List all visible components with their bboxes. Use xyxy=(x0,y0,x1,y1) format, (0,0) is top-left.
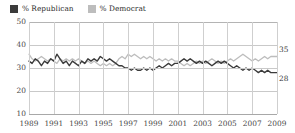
gridline-x-2009 xyxy=(277,22,278,114)
x-tick-label-2001: 2001 xyxy=(168,119,187,128)
gridline-x-1991 xyxy=(54,22,55,114)
x-tick-label-2005: 2005 xyxy=(218,119,237,128)
gridline-x-1999 xyxy=(153,22,154,114)
x-tick-label-1989: 1989 xyxy=(20,119,39,128)
x-tick-label-1997: 1997 xyxy=(119,119,138,128)
end-label-democrat: 35 xyxy=(279,46,288,54)
y-axis: 1020304050 xyxy=(0,0,26,133)
gridline-x-1989 xyxy=(29,22,30,114)
x-tick-label-2009: 2009 xyxy=(268,119,287,128)
x-tick-label-2007: 2007 xyxy=(243,119,262,128)
x-tick-label-2003: 2003 xyxy=(193,119,212,128)
y-tick-label-10: 10 xyxy=(2,110,26,118)
legend-swatch-democrat xyxy=(88,5,96,13)
gridline-y-10 xyxy=(29,114,277,115)
x-tick-label-1993: 1993 xyxy=(69,119,88,128)
plot-area xyxy=(29,22,277,114)
legend-label-democrat: % Democrat xyxy=(100,5,146,13)
legend-item-democrat: % Democrat xyxy=(88,5,146,13)
end-label-republican: 28 xyxy=(279,75,288,83)
y-tick-label-30: 30 xyxy=(2,64,26,72)
gridline-x-2001 xyxy=(178,22,179,114)
y-tick-label-40: 40 xyxy=(2,41,26,49)
x-tick-label-1991: 1991 xyxy=(44,119,63,128)
x-tick-label-1995: 1995 xyxy=(94,119,113,128)
gridline-x-2005 xyxy=(227,22,228,114)
gridline-x-2003 xyxy=(203,22,204,114)
gridline-x-1997 xyxy=(128,22,129,114)
x-tick-label-1999: 1999 xyxy=(144,119,163,128)
gridline-x-1995 xyxy=(103,22,104,114)
chart-legend: % Republican % Democrat xyxy=(10,2,146,15)
gridline-x-1993 xyxy=(79,22,80,114)
gridline-x-2007 xyxy=(252,22,253,114)
x-axis: 1989199119931995199719992001200320052007… xyxy=(29,119,277,131)
y-tick-label-20: 20 xyxy=(2,87,26,95)
chart-container: % Republican % Democrat 1020304050 19891… xyxy=(0,0,295,133)
y-tick-label-50: 50 xyxy=(2,18,26,26)
legend-label-republican: % Republican xyxy=(22,5,74,13)
